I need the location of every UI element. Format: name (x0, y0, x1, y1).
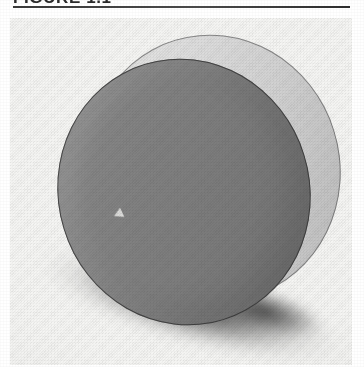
face-highlight-marker (112, 208, 124, 221)
caption-divider-rule (13, 6, 350, 8)
figure-page: FIGURE 1.1 (0, 0, 364, 367)
figure-panel (10, 18, 352, 365)
figure-caption-block: FIGURE 1.1 (0, 0, 364, 18)
disc-illustration (10, 18, 352, 365)
